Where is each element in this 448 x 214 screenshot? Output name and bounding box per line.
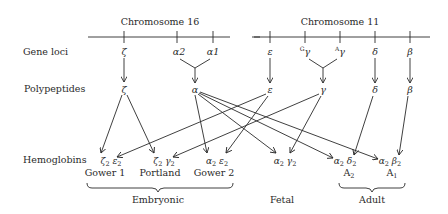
- gene-a-gamma: Aγ: [335, 46, 345, 57]
- hemoglobin-zeta2-gamma2: ζ2 γ2: [153, 157, 174, 168]
- polypeptide-alpha: α: [192, 85, 198, 95]
- polypeptide-gamma: γ: [320, 85, 326, 95]
- chromosome-11-label: Chromosome 11: [301, 17, 380, 27]
- diagram-lines: [0, 0, 448, 214]
- hemoglobin-alpha2-delta2: α2 δ2: [334, 157, 357, 168]
- stage-adult: Adult: [359, 195, 385, 205]
- hemoglobin-name-a1: A1: [386, 168, 397, 180]
- gene-epsilon: ε: [267, 47, 272, 57]
- hemoglobin-name-portland: Portland: [140, 168, 181, 178]
- hemoglobin-name-gower-2: Gower 2: [194, 168, 235, 178]
- hemoglobin-alpha2-epsilon2: α2 ε2: [206, 157, 228, 168]
- hemoglobins-label: Hemoglobins: [23, 155, 87, 165]
- stage-embryonic: Embryonic: [132, 195, 184, 205]
- adult-brace: [339, 183, 405, 192]
- stage-fetal: Fetal: [270, 195, 294, 205]
- gene-beta: β: [407, 47, 413, 57]
- chromosome-16-label: Chromosome 16: [121, 17, 200, 27]
- hemoglobin-zeta2-epsilon2: ζ2 ε2: [101, 157, 122, 168]
- embryonic-brace: [87, 183, 233, 192]
- polypeptides-label: Polypeptides: [24, 84, 85, 94]
- gene-alpha2: α2: [173, 47, 185, 57]
- polypeptide-epsilon: ε: [267, 85, 272, 95]
- gene-alpha1: α1: [207, 47, 219, 57]
- hemoglobin-name-gower-1: Gower 1: [85, 168, 126, 178]
- polypeptide-delta: δ: [372, 85, 378, 95]
- gene-loci-label: Gene loci: [23, 47, 68, 57]
- hemoglobin-alpha2-gamma2: α2 γ2: [274, 157, 297, 168]
- gene-zeta: ζ: [121, 47, 126, 57]
- gene-g-gamma: Gγ: [300, 46, 310, 57]
- hemoglobin-name-a2: A2: [343, 168, 354, 180]
- hemoglobin-alpha2-beta2: α2 β2: [379, 157, 401, 168]
- polypeptide-beta: β: [407, 85, 413, 95]
- gene-delta: δ: [372, 47, 378, 57]
- polypeptide-zeta: ζ: [121, 85, 126, 95]
